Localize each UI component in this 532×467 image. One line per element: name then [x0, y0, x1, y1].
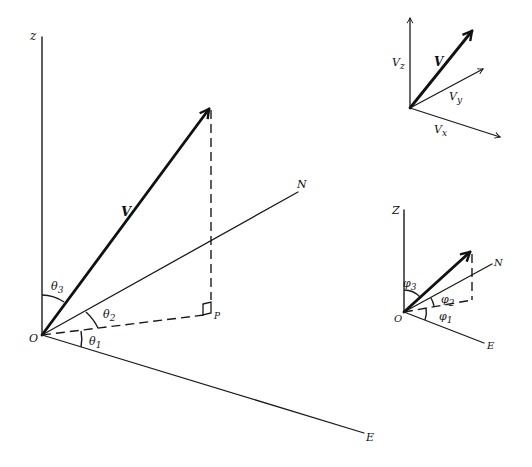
vx-arrow [410, 108, 500, 137]
inset-z-axis-label: Z [391, 204, 400, 217]
theta1-arc [81, 331, 82, 347]
inset-n-axis-label: N [493, 257, 504, 268]
right-angle-marker [203, 302, 211, 315]
vy-arrow [410, 69, 483, 108]
n-axis-label: N [296, 178, 307, 191]
vector-v [42, 109, 209, 335]
origin-label: O [29, 332, 38, 345]
inset-vector-v [410, 31, 472, 108]
e-axis-label: E [365, 431, 374, 444]
vy-label: Vy [449, 90, 463, 105]
phi1-label: φ1 [439, 310, 452, 325]
main-diagram: z N E V P O θ3 θ2 θ1 [29, 29, 374, 444]
point-p-label: P [213, 311, 221, 321]
inset-e-axis-label: E [486, 340, 495, 351]
z-axis-label: z [29, 29, 37, 43]
angle-inset: Z N E O φ3 φ2 φ1 [391, 204, 504, 351]
vx-label: Vx [434, 123, 447, 138]
inset-origin-label: O [394, 313, 402, 324]
phi3-label: φ3 [403, 277, 417, 292]
theta2-label: θ2 [103, 308, 116, 323]
phi2-label: φ2 [441, 293, 455, 308]
theta1-label: θ1 [89, 335, 101, 350]
components-inset: Vz V Vy Vx [392, 18, 500, 138]
theta3-label: θ3 [51, 280, 64, 295]
vz-label: Vz [392, 56, 405, 71]
vector-diagram: z N E V P O θ3 θ2 θ1 Vz V [0, 0, 532, 467]
theta2-arc [86, 312, 98, 328]
e-axis [42, 335, 364, 433]
theta3-arc [42, 295, 64, 302]
n-axis [42, 192, 298, 335]
vector-v-label: V [121, 204, 133, 219]
horizontal-projection-line [42, 315, 204, 335]
phi2-arc [431, 298, 434, 306]
phi1-arc [425, 308, 426, 320]
